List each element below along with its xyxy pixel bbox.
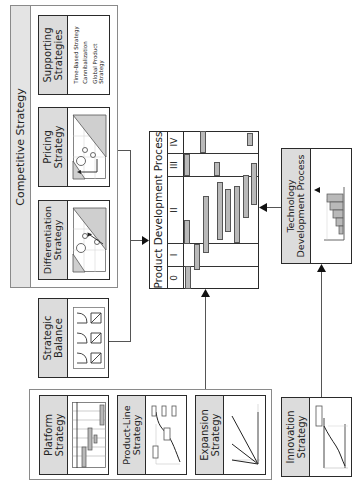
expansion-strategy-title: Expansion Strategy bbox=[199, 409, 220, 461]
gantt-bar bbox=[194, 244, 200, 270]
platform-strategy-title: Platform Strategy bbox=[43, 414, 64, 457]
differentiation-strategy-title: Differentiation Strategy bbox=[43, 206, 63, 274]
product-line-strategy-box: Product-Line Strategy bbox=[117, 395, 187, 475]
pricing-map-icon bbox=[73, 115, 106, 179]
phase-label-ii: II bbox=[170, 207, 179, 212]
gantt-bar bbox=[247, 133, 253, 146]
supporting-strategies-box: Supporting Strategies Time-Based Strateg… bbox=[38, 15, 110, 95]
phase-label-iv: IV bbox=[170, 138, 179, 147]
supporting-strategies-title: Supporting Strategies bbox=[43, 28, 64, 83]
technology-development-process-box: Technology Development Process bbox=[281, 148, 352, 264]
connector-tdp-to-pdp bbox=[266, 207, 281, 208]
gantt-bar bbox=[225, 189, 231, 232]
tdp-title: Technology Development Process bbox=[286, 154, 306, 257]
differentiation-strategy-box: Differentiation Strategy bbox=[38, 200, 110, 280]
differentiation-map-icon bbox=[73, 208, 106, 272]
supporting-item-time-based: Time-Based Strategy bbox=[73, 26, 79, 83]
connector-competitive bbox=[118, 150, 130, 151]
expansion-fan-icon bbox=[228, 404, 264, 468]
gantt-bar bbox=[203, 196, 209, 253]
arrow-into-pdp-from-tdp-icon bbox=[259, 203, 267, 212]
technology-staircase-icon bbox=[314, 187, 350, 241]
platform-strategy-box: Platform Strategy bbox=[39, 395, 109, 475]
strategic-balance-box: Strategic Balance bbox=[38, 298, 109, 378]
strategic-balance-title: Strategic Balance bbox=[43, 315, 64, 360]
gantt-bar bbox=[200, 131, 206, 153]
phase-label-iii: III bbox=[170, 161, 179, 169]
innovation-strategy-title: Innovation Strategy bbox=[285, 411, 306, 464]
innovation-strategy-box: Innovation Strategy bbox=[281, 397, 352, 477]
pdp-title: Product Development Process bbox=[153, 131, 164, 288]
supporting-strategies-strip: Supporting Strategies bbox=[39, 16, 68, 94]
connector-bottom-to-pdp bbox=[205, 296, 206, 389]
competitive-strategy-title-strip: Competitive Strategy bbox=[11, 6, 31, 287]
supporting-item-global-product: Global Product bbox=[92, 26, 98, 83]
innovation-curve-icon bbox=[314, 404, 350, 470]
gantt-bar bbox=[184, 154, 190, 176]
pricing-strategy-title: Pricing Strategy bbox=[43, 126, 64, 169]
pricing-strategy-box: Pricing Strategy bbox=[38, 107, 110, 187]
gantt-bar bbox=[214, 162, 220, 176]
gantt-bar bbox=[184, 220, 190, 244]
gantt-bar bbox=[251, 163, 257, 205]
phase-label-0: 0 bbox=[170, 275, 179, 281]
gantt-bar bbox=[243, 175, 249, 218]
phase-label-i: I bbox=[170, 253, 179, 256]
product-line-curve-icon bbox=[150, 404, 184, 468]
platform-gantt-icon bbox=[72, 402, 106, 468]
competitive-strategy-title: Competitive Strategy bbox=[15, 88, 27, 206]
connector-innovation-to-tdp bbox=[321, 271, 322, 397]
arrow-into-pdp-bottom-icon bbox=[201, 289, 210, 297]
arrow-into-tdp-icon bbox=[317, 264, 326, 272]
supporting-strategies-list: Time-Based Strategy Cannibalization Glob… bbox=[68, 16, 109, 94]
product-line-strategy-title: Product-Line Strategy bbox=[122, 405, 142, 464]
gantt-bar bbox=[234, 186, 240, 243]
strategic-balance-icon bbox=[73, 307, 105, 369]
connector-balance bbox=[109, 341, 130, 342]
expansion-strategy-box: Expansion Strategy bbox=[195, 395, 266, 475]
gantt-bar bbox=[185, 266, 191, 289]
connector-vertical-left bbox=[130, 150, 131, 342]
gantt-bar bbox=[217, 182, 223, 240]
supporting-item-global-product-2: Strategy bbox=[98, 26, 104, 83]
supporting-item-cannibalization: Cannibalization bbox=[82, 26, 88, 83]
